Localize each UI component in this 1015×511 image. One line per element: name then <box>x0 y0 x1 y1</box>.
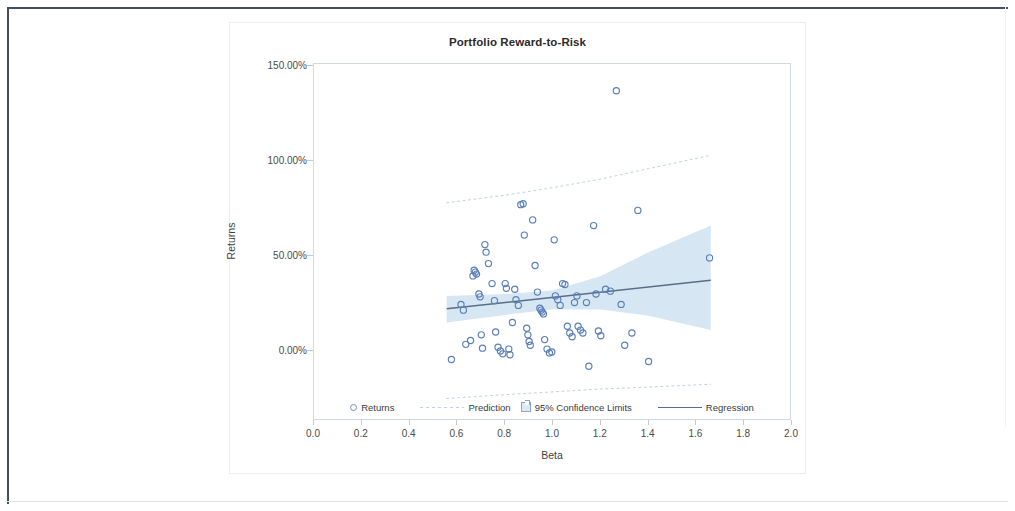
x-tick-label: 1.2 <box>593 428 607 439</box>
x-axis-title: Beta <box>313 449 791 461</box>
legend-item-confidence-limits: 95% Confidence Limits <box>521 402 632 413</box>
x-tick-label: 1.0 <box>545 428 559 439</box>
chart-title: Portfolio Reward-to-Risk <box>229 36 806 48</box>
scatter-point <box>527 342 533 348</box>
x-tick-mark <box>313 420 314 425</box>
scatter-point <box>526 338 532 344</box>
scatter-point <box>524 325 530 331</box>
plot-area <box>313 63 791 420</box>
y-tick-label: 100.00% <box>268 155 307 166</box>
scatter-point <box>483 249 489 255</box>
solid-line-icon <box>658 407 702 408</box>
scatter-point <box>482 242 488 248</box>
scatter-point <box>635 207 641 213</box>
legend-item-prediction: Prediction <box>420 402 510 413</box>
scatter-point <box>564 323 570 329</box>
prediction-upper-limit <box>447 155 711 203</box>
scatter-point <box>586 363 592 369</box>
y-axis-tick-labels: 0.00%50.00%100.00%150.00% <box>245 63 307 420</box>
scatter-point <box>478 332 484 338</box>
scatter-point <box>542 337 548 343</box>
legend-label-regression: Regression <box>706 402 754 413</box>
scatter-point <box>551 237 557 243</box>
open-circle-icon <box>350 404 357 411</box>
scatter-point <box>467 337 473 343</box>
x-tick-mark <box>695 420 696 425</box>
y-tick-label: 0.00% <box>279 345 307 356</box>
y-tick-label: 150.00% <box>268 60 307 71</box>
x-axis-tick-labels: 0.00.20.40.60.81.01.21.41.61.82.0 <box>313 428 791 444</box>
y-tick-mark <box>307 350 313 351</box>
x-tick-mark <box>456 420 457 425</box>
x-tick-mark <box>743 420 744 425</box>
x-tick-mark <box>361 420 362 425</box>
prediction-lower-limit <box>447 384 711 398</box>
legend-label-confidence-limits: 95% Confidence Limits <box>535 402 632 413</box>
x-tick-label: 1.6 <box>688 428 702 439</box>
filled-box-icon <box>521 402 531 412</box>
scatter-point <box>532 262 538 268</box>
scatter-point <box>646 358 652 364</box>
x-tick-label: 1.4 <box>641 428 655 439</box>
y-tick-label: 50.00% <box>273 250 307 261</box>
x-tick-label: 1.8 <box>736 428 750 439</box>
x-tick-mark <box>504 420 505 425</box>
x-tick-mark <box>409 420 410 425</box>
scatter-point <box>485 261 491 267</box>
scatter-point <box>489 280 495 286</box>
dotted-line-icon <box>420 407 464 408</box>
x-tick-label: 0.8 <box>497 428 511 439</box>
y-tick-mark <box>307 160 313 161</box>
x-tick-mark <box>600 420 601 425</box>
legend-item-regression: Regression <box>658 402 754 413</box>
x-tick-label: 0.6 <box>449 428 463 439</box>
scatter-point <box>521 232 527 238</box>
scatter-point <box>448 356 454 362</box>
y-tick-mark <box>307 65 313 66</box>
x-tick-label: 0.2 <box>354 428 368 439</box>
x-tick-mark <box>648 420 649 425</box>
legend-item-returns: Returns <box>350 402 394 413</box>
x-tick-label: 0.0 <box>306 428 320 439</box>
scatter-points-group <box>448 88 712 370</box>
chart-legend: Returns Prediction 95% Confidence Limits… <box>318 399 786 415</box>
scatter-point <box>629 330 635 336</box>
x-tick-label: 0.4 <box>402 428 416 439</box>
document-page-right-edge <box>1005 7 1006 427</box>
y-axis-title: Returns <box>225 223 237 260</box>
scatter-point <box>530 217 536 223</box>
scatter-point <box>512 286 518 292</box>
x-tick-label: 2.0 <box>784 428 798 439</box>
scatter-point <box>493 329 499 335</box>
scatter-point <box>622 342 628 348</box>
scatter-plot-svg <box>314 64 791 420</box>
x-tick-mark <box>552 420 553 425</box>
legend-label-returns: Returns <box>361 402 394 413</box>
scatter-point <box>507 352 513 358</box>
scatter-point <box>613 88 619 94</box>
scatter-point <box>479 345 485 351</box>
scatter-point <box>591 223 597 229</box>
legend-label-prediction: Prediction <box>468 402 510 413</box>
document-page-bottom-edge <box>7 501 1008 502</box>
scatter-point <box>525 332 531 338</box>
scatter-point <box>509 319 515 325</box>
y-tick-mark <box>307 255 313 256</box>
x-tick-mark <box>791 420 792 425</box>
